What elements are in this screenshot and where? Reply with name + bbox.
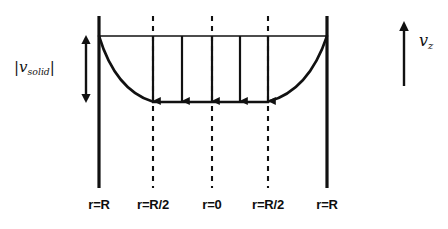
velocity-profile-figure: |vsolid| vz r=R r=R/2 r=0 r=R/2 r=R	[0, 0, 448, 229]
velocity-magnitude-base: v	[19, 58, 27, 76]
axis-label-r-R-right: r=R	[316, 197, 337, 212]
vz-axis-arrow-head	[399, 21, 409, 31]
vz-base: v	[419, 31, 428, 50]
axis-label-r-R-left: r=R	[88, 197, 109, 212]
axis-label-r-half-left: r=R/2	[137, 197, 169, 212]
velocity-magnitude-label: |vsolid|	[14, 60, 55, 75]
axis-label-r-half-right: r=R/2	[252, 197, 284, 212]
diagram-canvas	[0, 0, 448, 229]
vz-subscript: z	[428, 40, 433, 51]
vz-axis-label: vz	[419, 33, 433, 49]
profile-curve-right	[269, 36, 328, 102]
magnitude-arrow-head-up	[81, 35, 90, 44]
axis-label-r-zero: r=0	[202, 197, 221, 212]
magnitude-arrow-head-down	[81, 94, 90, 103]
abs-bar-right: |	[50, 58, 55, 76]
velocity-magnitude-subscript: solid	[28, 66, 50, 77]
profile-curve-left	[99, 36, 153, 102]
